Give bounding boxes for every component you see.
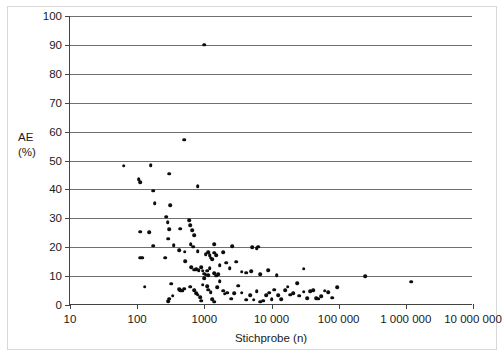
x-tick-label: 10 (64, 313, 77, 325)
data-point (295, 282, 299, 286)
data-point (182, 138, 186, 142)
y-axis-label-line2: (%) (18, 145, 36, 160)
y-tick-mark (65, 45, 70, 46)
data-point (257, 245, 261, 249)
data-point (244, 298, 248, 302)
data-point (240, 291, 244, 295)
data-point (164, 215, 168, 219)
y-tick-label: 80 (49, 68, 62, 80)
data-point (197, 269, 201, 273)
x-tick-label: 10 000 000 (444, 313, 502, 325)
y-tick-mark (65, 276, 70, 277)
y-tick-label: 20 (49, 241, 62, 253)
y-tick-mark (65, 74, 70, 75)
y-tick-label: 60 (49, 126, 62, 138)
data-point (409, 280, 413, 284)
gridline-50 (70, 161, 472, 162)
data-point (291, 291, 295, 295)
y-tick-mark (65, 189, 70, 190)
data-point (240, 270, 244, 274)
data-point (233, 292, 237, 296)
x-tick-mark (339, 304, 340, 309)
data-point (215, 285, 219, 289)
x-tick-label: 1000 (192, 313, 218, 325)
x-tick-label: 10 000 (254, 313, 289, 325)
data-point (249, 270, 253, 274)
y-axis-label-line1: AE (18, 130, 36, 145)
data-point (149, 163, 153, 167)
data-point (280, 297, 284, 301)
x-tick-mark (204, 304, 205, 309)
data-point (251, 246, 255, 250)
data-point (207, 273, 211, 277)
data-point (201, 283, 205, 287)
plot-area: 0102030405060708090100 10100100010 00010… (69, 16, 472, 305)
data-point (272, 288, 276, 292)
gridline-40 (70, 189, 472, 190)
data-point (179, 227, 183, 231)
data-point (312, 288, 316, 292)
gridline-70 (70, 103, 472, 104)
data-point (183, 260, 187, 264)
data-point (267, 269, 271, 273)
data-point (330, 296, 334, 300)
data-point (166, 299, 170, 303)
data-point (214, 253, 218, 257)
data-point (166, 221, 170, 225)
y-tick-label: 0 (56, 299, 62, 311)
gridline-100 (70, 16, 472, 17)
data-point (172, 244, 176, 248)
data-point (364, 274, 368, 278)
data-point (255, 290, 259, 294)
data-point (226, 291, 230, 295)
gridline-20 (70, 247, 472, 248)
data-point (228, 266, 232, 270)
scatter-chart-figure: AE (%) 0102030405060708090100 1010010001… (0, 0, 504, 357)
data-point (236, 284, 240, 288)
y-tick-mark (65, 218, 70, 219)
y-tick-mark (65, 16, 70, 17)
data-point (196, 184, 200, 188)
data-point (167, 172, 171, 176)
data-point (229, 297, 233, 301)
data-point (275, 273, 279, 277)
data-point (283, 288, 287, 292)
data-point (208, 267, 212, 271)
data-point (230, 245, 234, 249)
y-tick-label: 30 (49, 212, 62, 224)
data-point (138, 180, 142, 184)
data-point (224, 261, 228, 265)
data-point (258, 272, 262, 276)
data-point (138, 230, 142, 234)
data-point (163, 256, 167, 260)
y-tick-label: 90 (49, 39, 62, 51)
data-point (298, 294, 302, 298)
data-point (216, 272, 220, 276)
data-point (218, 280, 222, 284)
y-tick-label: 50 (49, 155, 62, 167)
data-point (189, 223, 193, 227)
data-point (305, 297, 309, 301)
data-point (218, 263, 222, 267)
data-point (147, 230, 151, 234)
data-point (248, 293, 252, 297)
data-point (212, 300, 216, 304)
x-tick-label: 1 000 000 (380, 313, 431, 325)
data-point (210, 258, 214, 262)
gridline-30 (70, 218, 472, 219)
data-point (166, 237, 170, 241)
x-axis-label: Stichprobe (n) (0, 332, 504, 344)
data-point (221, 250, 225, 254)
x-tick-label: 100 000 (318, 313, 360, 325)
data-point (335, 286, 339, 290)
data-point (302, 267, 306, 271)
x-tick-mark (406, 304, 407, 309)
data-point (203, 43, 207, 47)
data-point (143, 285, 147, 289)
gridline-60 (70, 132, 472, 133)
data-point (192, 234, 196, 238)
data-point (168, 203, 172, 207)
data-point (188, 218, 192, 222)
data-point (171, 294, 175, 298)
y-tick-mark (65, 247, 70, 248)
